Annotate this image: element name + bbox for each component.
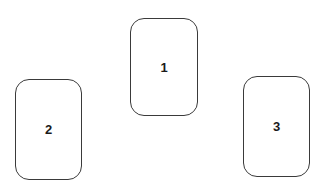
card-2: 2 <box>15 79 82 180</box>
card-3-label: 3 <box>273 119 280 134</box>
diagram-canvas: 1 2 3 <box>0 0 326 189</box>
card-1: 1 <box>130 18 198 116</box>
card-1-label: 1 <box>160 60 167 75</box>
card-3: 3 <box>243 76 310 177</box>
card-2-label: 2 <box>45 122 52 137</box>
